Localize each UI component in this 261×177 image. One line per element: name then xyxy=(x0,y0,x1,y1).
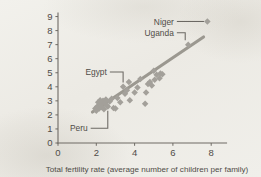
y-tick-label: 9 xyxy=(47,11,52,22)
y-tick-label: 1 xyxy=(47,123,52,134)
annotation-group: NigerUgandaEgyptPeru xyxy=(70,17,204,134)
x-tick-label: 4 xyxy=(132,147,137,158)
x-tick-label: 0 xyxy=(55,147,60,158)
x-tick-label: 2 xyxy=(94,147,99,158)
y-tick-label: 4 xyxy=(47,81,52,92)
y-tick-label: 3 xyxy=(47,95,52,106)
x-axis-tick-labels: 02468 xyxy=(55,147,213,158)
annotation-leader-peru xyxy=(91,111,108,128)
data-point-marker xyxy=(127,97,134,104)
x-tick-label: 8 xyxy=(209,147,214,158)
annotation-leader-egypt xyxy=(110,72,123,82)
annotation-label-peru: Peru xyxy=(70,123,88,133)
x-tick-label: 6 xyxy=(170,147,175,158)
y-axis-tick-labels: 0123456789 xyxy=(47,11,52,148)
x-axis-title: Total fertility rate (average number of … xyxy=(46,165,249,174)
y-tick-label: 0 xyxy=(47,137,52,148)
scatter-chart-figure: 0123456789 02468 Desired fertility (desi… xyxy=(0,0,261,177)
data-point-marker xyxy=(142,100,149,107)
y-tick-label: 8 xyxy=(47,25,52,36)
plot-canvas: 0123456789 02468 Desired fertility (desi… xyxy=(0,0,261,177)
data-point-marker xyxy=(143,89,150,96)
annotation-label-uganda: Uganda xyxy=(145,28,175,38)
y-tick-label: 6 xyxy=(47,53,52,64)
annotation-label-niger: Niger xyxy=(154,17,174,27)
annotation-leader-uganda xyxy=(177,33,185,41)
data-point-marker xyxy=(204,18,211,25)
y-tick-label: 7 xyxy=(47,39,52,50)
y-tick-label: 5 xyxy=(47,67,52,78)
annotation-label-egypt: Egypt xyxy=(85,67,107,77)
y-tick-label: 2 xyxy=(47,109,52,120)
